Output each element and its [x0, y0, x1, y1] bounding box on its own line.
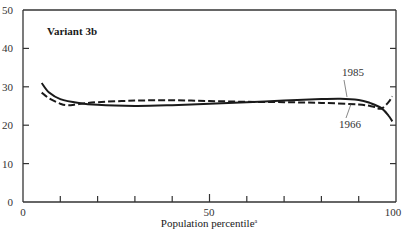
- annotation-1985-leader: [344, 80, 347, 97]
- y-tick-10: 10: [2, 158, 14, 170]
- plot-frame: [23, 10, 396, 202]
- x-tick-0: 0: [20, 206, 26, 218]
- series-1966-line: [42, 93, 393, 109]
- annotation-1966: 1966: [339, 118, 362, 130]
- y-tick-0: 0: [8, 196, 14, 208]
- y-tick-20: 20: [2, 119, 14, 131]
- annotation-1966-leader: [346, 104, 351, 118]
- y-tick-30: 30: [2, 81, 14, 93]
- x-tick-100: 100: [385, 206, 402, 218]
- y-tick-50: 50: [2, 4, 14, 16]
- x-axis-title: Population percentilea: [161, 217, 258, 229]
- y-tick-40: 40: [2, 42, 14, 54]
- y-axis-labels: 0 10 20 30 40 50: [2, 4, 14, 208]
- annotation-1985: 1985: [342, 66, 365, 78]
- y-axis-ticks: [23, 48, 396, 163]
- chart-svg: 0 10 20 30 40 50 0 50 100 Population per…: [0, 0, 403, 229]
- x-axis-ticks: [60, 194, 358, 202]
- panel-label: Variant 3b: [47, 25, 97, 37]
